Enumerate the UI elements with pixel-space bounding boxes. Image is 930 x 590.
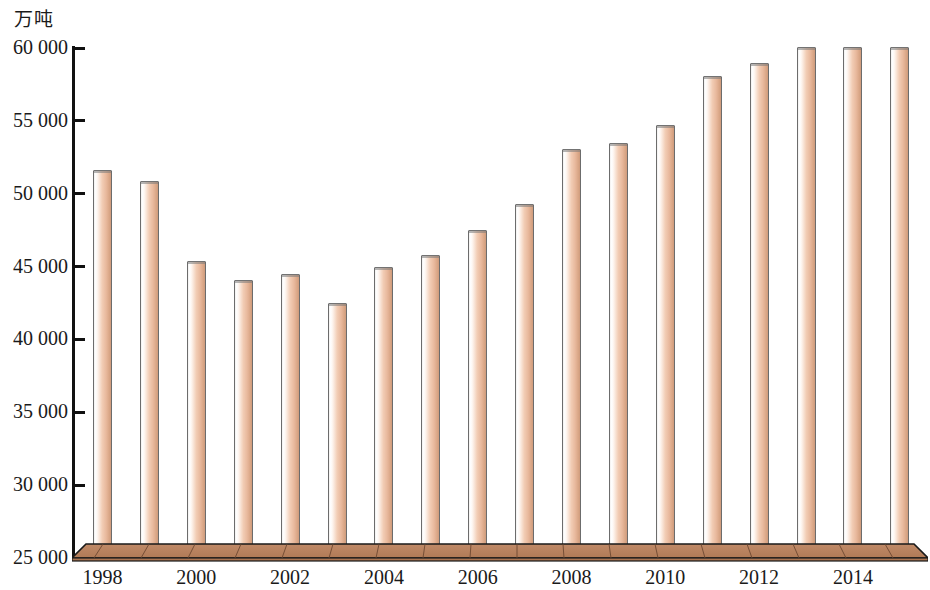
bar [187, 261, 206, 558]
bar [421, 255, 440, 558]
x-axis-tick-label: 2014 [833, 566, 873, 588]
bar [234, 280, 253, 558]
x-axis-tick-label: 2008 [552, 566, 592, 588]
ground-platform [72, 540, 928, 562]
x-axis-tick-label: 2000 [176, 566, 216, 588]
x-axis-tick-label: 2010 [645, 566, 685, 588]
bar [562, 149, 581, 558]
x-axis-tick-label: 2006 [458, 566, 498, 588]
bar [797, 47, 816, 558]
bar [281, 274, 300, 558]
bar [750, 63, 769, 558]
x-axis-tick-label: 2002 [270, 566, 310, 588]
bar [843, 47, 862, 558]
bar [468, 230, 487, 558]
bar [703, 76, 722, 558]
x-axis-tick-label: 1998 [83, 566, 123, 588]
x-axis-tick-label: 2012 [739, 566, 779, 588]
bar [890, 47, 909, 558]
x-axis-tick-label: 2004 [364, 566, 404, 588]
bar [140, 181, 159, 558]
bar-chart: 万吨 25 00030 00035 00040 00045 00050 0005… [0, 0, 930, 590]
bar [515, 204, 534, 558]
bar [609, 143, 628, 558]
bar [374, 267, 393, 558]
bar [328, 303, 347, 558]
bar [93, 170, 112, 558]
bars-layer [0, 0, 930, 559]
bar [656, 125, 675, 558]
